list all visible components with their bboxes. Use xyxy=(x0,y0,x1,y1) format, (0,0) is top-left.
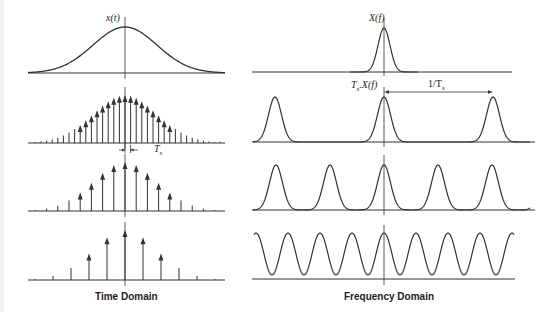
impulse-arrow-icon xyxy=(117,96,122,103)
left-arrow-icon xyxy=(384,90,389,94)
impulse-arrow-icon xyxy=(87,253,92,260)
impulse-arrow-icon xyxy=(123,95,128,102)
gaussian-curve xyxy=(28,27,225,73)
one-over-ts-label: 1/Ts xyxy=(428,78,445,92)
impulse-arrow-icon xyxy=(145,105,150,112)
impulse-arrow-icon xyxy=(139,101,144,108)
impulse-arrow-icon xyxy=(167,193,172,200)
impulse-arrow-icon xyxy=(100,105,105,112)
replica-spectrum-curve xyxy=(253,165,530,210)
impulse-arrow-icon xyxy=(105,237,110,244)
time-domain-panel xyxy=(28,17,225,286)
ts-arrow-icon xyxy=(131,149,134,152)
impulse-arrow-icon xyxy=(95,110,100,117)
frequency-domain-panel xyxy=(252,18,535,285)
impulse-arrow-icon xyxy=(123,230,128,237)
impulse-arrow-icon xyxy=(134,98,139,105)
x-t-label: x(t) xyxy=(106,12,120,23)
impulse-arrow-icon xyxy=(78,125,83,132)
impulse-arrow-icon xyxy=(128,96,133,103)
impulse-arrow-icon xyxy=(111,165,116,172)
impulse-arrow-icon xyxy=(156,183,161,190)
frequency-domain-caption: Frequency Domain xyxy=(344,291,434,302)
impulse-arrow-icon xyxy=(162,120,167,127)
impulse-arrow-icon xyxy=(123,162,128,169)
sampling-diagram xyxy=(0,0,557,312)
impulse-arrow-icon xyxy=(145,173,150,180)
time-domain-caption: Time Domain xyxy=(95,291,158,302)
right-arrow-icon xyxy=(488,90,493,94)
impulse-arrow-icon xyxy=(89,115,94,122)
impulse-arrow-icon xyxy=(156,115,161,122)
impulse-arrow-icon xyxy=(100,173,105,180)
impulse-arrow-icon xyxy=(83,120,88,127)
ts-xf-label: Ts.X(f) xyxy=(351,79,377,93)
impulse-arrow-icon xyxy=(89,183,94,190)
ts-arrow-icon xyxy=(122,149,125,152)
impulse-arrow-icon xyxy=(134,165,139,172)
impulse-arrow-icon xyxy=(106,101,111,108)
impulse-arrow-icon xyxy=(151,110,156,117)
impulse-arrow-icon xyxy=(78,193,83,200)
impulse-arrow-icon xyxy=(141,237,146,244)
replica-spectrum-curve xyxy=(253,97,530,142)
ts-period-label: Ts xyxy=(154,143,162,157)
X-f-label: X(f) xyxy=(369,12,385,23)
impulse-arrow-icon xyxy=(167,125,172,132)
impulse-arrow-icon xyxy=(111,98,116,105)
impulse-arrow-icon xyxy=(159,253,164,260)
